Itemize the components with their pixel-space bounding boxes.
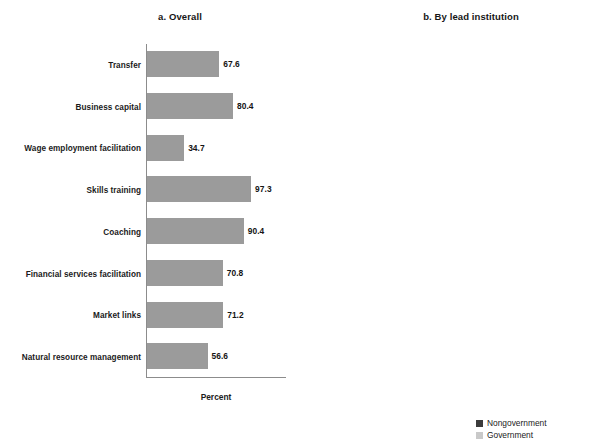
plot-area-overall: Transfer67.6Business capital80.4Wage emp… xyxy=(146,44,286,378)
panel-overall: a. Overall Transfer67.6Business capital8… xyxy=(0,0,308,446)
bar-row: Wage employment facilitation34.7 xyxy=(147,128,287,170)
legend-item: Nongovernment xyxy=(476,417,547,429)
bar-value-label: 56.6 xyxy=(212,351,229,361)
bar-value-label: 67.6 xyxy=(223,59,240,69)
bar-group: 56.6 xyxy=(147,343,228,369)
legend-label: Government xyxy=(487,430,533,440)
bar-value-label: 70.8 xyxy=(227,268,244,278)
bar xyxy=(147,218,244,244)
bar-group: 71.2 xyxy=(147,302,244,328)
x-axis-label-overall: Percent xyxy=(146,392,286,402)
bar-value-label: 71.2 xyxy=(227,310,244,320)
bar-group: 90.4 xyxy=(147,218,264,244)
bar-row: Business capital80.4 xyxy=(147,86,287,128)
legend-label: Nongovernment xyxy=(487,418,547,428)
bar-row: Skills training97.3 xyxy=(147,169,287,211)
category-label: Wage employment facilitation xyxy=(24,144,141,153)
bar-value-label: 34.7 xyxy=(188,143,205,153)
bar xyxy=(147,51,219,77)
bar-value-label: 97.3 xyxy=(255,184,272,194)
bar-row: Transfer67.6 xyxy=(147,44,287,86)
category-label: Business capital xyxy=(76,102,141,111)
category-label: Market links xyxy=(93,311,141,320)
category-label: Transfer xyxy=(108,60,141,69)
bar-group: 80.4 xyxy=(147,93,254,119)
category-label: Financial services facilitation xyxy=(26,269,141,278)
bar xyxy=(147,302,223,328)
bar xyxy=(147,93,233,119)
panel-b-title: b. By lead institution xyxy=(308,11,616,22)
bar-row: Financial services facilitation70.8 xyxy=(147,253,287,295)
bar xyxy=(147,343,208,369)
legend-swatch-icon xyxy=(476,432,483,439)
legend: NongovernmentGovernment xyxy=(476,417,547,441)
category-label: Skills training xyxy=(87,186,141,195)
bar-group: 97.3 xyxy=(147,176,272,202)
bar-group: 70.8 xyxy=(147,260,243,286)
legend-item: Government xyxy=(476,429,547,441)
bar xyxy=(147,176,251,202)
category-label: Coaching xyxy=(103,227,141,236)
bar-group: 67.6 xyxy=(147,51,240,77)
bar xyxy=(147,135,184,161)
bar-row: Market links71.2 xyxy=(147,295,287,337)
category-label: Natural resource management xyxy=(22,353,141,362)
bar-row: Natural resource management56.6 xyxy=(147,336,287,378)
panel-a-title: a. Overall xyxy=(0,11,308,22)
bar-value-label: 90.4 xyxy=(248,226,265,236)
bar xyxy=(147,260,223,286)
legend-swatch-icon xyxy=(476,420,483,427)
panel-by-lead-institution: b. By lead institution Transfer65.270.1B… xyxy=(308,0,616,446)
figure: a. Overall Transfer67.6Business capital8… xyxy=(0,0,616,446)
bar-value-label: 80.4 xyxy=(237,101,254,111)
bar-row: Coaching90.4 xyxy=(147,211,287,253)
bar-group: 34.7 xyxy=(147,135,205,161)
